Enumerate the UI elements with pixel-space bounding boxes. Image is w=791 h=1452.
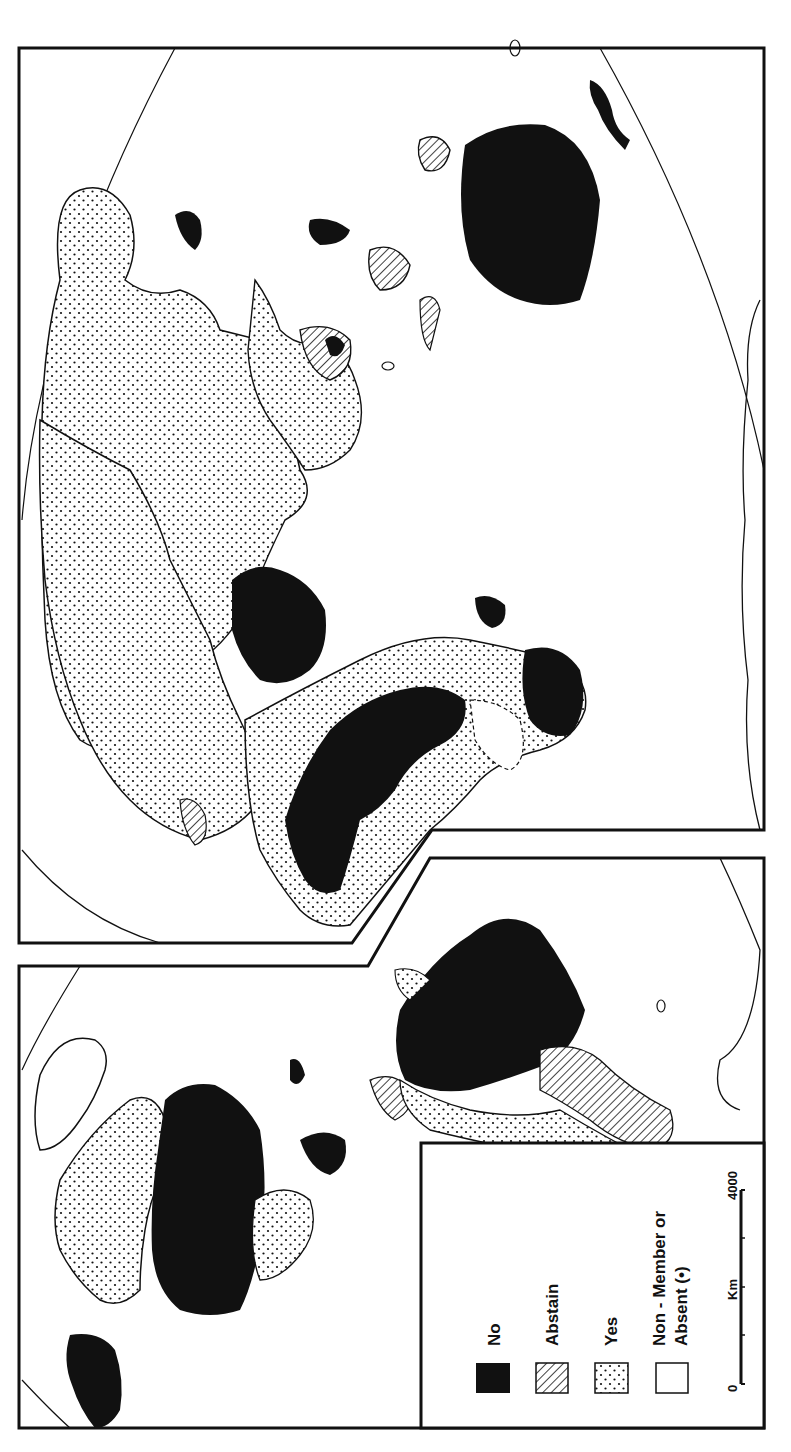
legend-label-abstain: Abstain [543,1284,562,1346]
scale-end-label: 4000 [725,1171,740,1200]
legend-swatch-yes [595,1363,628,1393]
legend-label-no: No [485,1323,504,1346]
legend-swatch-non-member [656,1363,688,1393]
eastern-hemisphere-panel [19,40,764,943]
scale-start-label: 0 [725,1385,740,1392]
legend-swatch-no [476,1363,510,1393]
legend-label-yes: Yes [602,1317,621,1346]
legend-swatch-abstain [536,1363,568,1393]
world-vote-map: No Abstain Yes Non - Member or Absent (•… [0,0,791,1452]
region-usa-no [152,1084,265,1315]
legend: No Abstain Yes Non - Member or Absent (•… [421,1143,764,1428]
scale-unit-label: Km [725,1279,740,1300]
legend-label-absent: Absent (•) [672,1266,691,1346]
legend-frame [421,1143,764,1428]
legend-label-non-member: Non - Member or [650,1211,669,1346]
